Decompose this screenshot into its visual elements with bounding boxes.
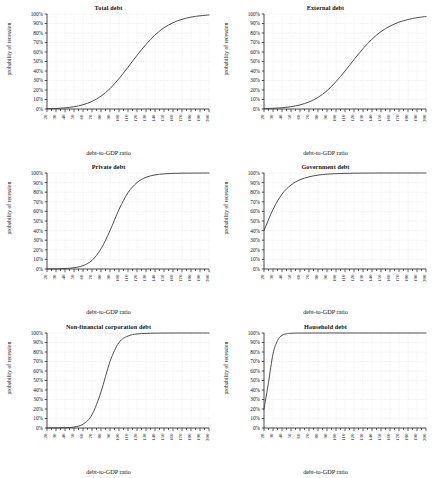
svg-text:190: 190 <box>196 274 201 282</box>
svg-text:100: 100 <box>332 114 337 122</box>
svg-text:110: 110 <box>124 433 129 441</box>
x-axis-label: debt-to-GDP ratio <box>0 149 217 156</box>
svg-text:60: 60 <box>296 274 301 280</box>
svg-text:100: 100 <box>332 433 337 441</box>
svg-text:30%: 30% <box>250 396 260 402</box>
svg-text:60%: 60% <box>33 49 43 55</box>
svg-text:70: 70 <box>88 114 93 120</box>
chart-panel-household-debt: Household debt probability of recession … <box>217 319 434 478</box>
svg-text:20%: 20% <box>33 406 43 412</box>
svg-text:90: 90 <box>106 433 111 439</box>
svg-text:30%: 30% <box>33 237 43 243</box>
svg-text:50%: 50% <box>250 218 260 224</box>
svg-text:30: 30 <box>269 274 274 280</box>
svg-text:60%: 60% <box>250 368 260 374</box>
svg-text:40: 40 <box>278 433 283 439</box>
svg-text:90%: 90% <box>250 180 260 186</box>
svg-text:140: 140 <box>151 114 156 122</box>
svg-text:70%: 70% <box>33 199 43 205</box>
svg-text:200: 200 <box>422 274 427 282</box>
svg-text:70: 70 <box>305 433 310 439</box>
svg-text:30: 30 <box>269 433 274 439</box>
svg-text:60: 60 <box>296 114 301 120</box>
svg-text:60%: 60% <box>250 49 260 55</box>
svg-text:20%: 20% <box>250 247 260 253</box>
chart-panel-external-debt: External debt probability of recession 0… <box>217 0 434 159</box>
svg-text:200: 200 <box>422 433 427 441</box>
svg-text:150: 150 <box>377 114 382 122</box>
svg-text:80: 80 <box>97 274 102 280</box>
svg-text:140: 140 <box>368 274 373 282</box>
svg-text:180: 180 <box>404 114 409 122</box>
svg-text:80%: 80% <box>250 349 260 355</box>
svg-text:120: 120 <box>133 433 138 441</box>
svg-text:140: 140 <box>151 433 156 441</box>
svg-text:140: 140 <box>368 433 373 441</box>
svg-text:80%: 80% <box>250 30 260 36</box>
svg-text:150: 150 <box>160 114 165 122</box>
svg-text:0%: 0% <box>253 266 261 272</box>
svg-text:90: 90 <box>106 114 111 120</box>
svg-text:40: 40 <box>278 114 283 120</box>
plot-area: 0%10%20%30%40%50%60%70%80%90%100%2030405… <box>0 319 217 478</box>
svg-text:60%: 60% <box>33 368 43 374</box>
svg-text:150: 150 <box>160 433 165 441</box>
svg-text:30: 30 <box>52 114 57 120</box>
svg-text:200: 200 <box>205 274 210 282</box>
plot-area: 0%10%20%30%40%50%60%70%80%90%100%2030405… <box>0 159 217 319</box>
svg-text:50%: 50% <box>250 377 260 383</box>
svg-text:20: 20 <box>43 433 48 439</box>
svg-text:120: 120 <box>350 433 355 441</box>
svg-text:140: 140 <box>368 114 373 122</box>
svg-text:20: 20 <box>260 433 265 439</box>
svg-text:180: 180 <box>187 114 192 122</box>
svg-text:50: 50 <box>287 114 292 120</box>
svg-text:100%: 100% <box>31 330 44 336</box>
svg-text:160: 160 <box>386 274 391 282</box>
svg-text:30: 30 <box>269 114 274 120</box>
svg-text:150: 150 <box>377 433 382 441</box>
chart-panel-total-debt: Total debt probability of recession 0%10… <box>0 0 217 159</box>
plot-area: 0%10%20%30%40%50%60%70%80%90%100%2030405… <box>217 0 434 159</box>
svg-text:90%: 90% <box>33 20 43 26</box>
svg-text:50%: 50% <box>33 58 43 64</box>
x-axis-label: debt-to-GDP ratio <box>217 468 434 475</box>
chart-panel-government-debt: Government debt probability of recession… <box>217 159 434 318</box>
x-axis-label: debt-to-GDP ratio <box>0 468 217 475</box>
svg-text:10%: 10% <box>250 415 260 421</box>
plot-area: 0%10%20%30%40%50%60%70%80%90%100%2030405… <box>217 159 434 319</box>
svg-text:100%: 100% <box>248 330 261 336</box>
svg-text:20%: 20% <box>250 87 260 93</box>
svg-text:0%: 0% <box>253 106 261 112</box>
svg-text:20%: 20% <box>33 87 43 93</box>
svg-text:60: 60 <box>79 114 84 120</box>
svg-text:20: 20 <box>260 274 265 280</box>
x-axis-label: debt-to-GDP ratio <box>217 149 434 156</box>
svg-text:80: 80 <box>97 433 102 439</box>
svg-text:90: 90 <box>323 274 328 280</box>
svg-text:20%: 20% <box>33 247 43 253</box>
svg-text:110: 110 <box>124 274 129 282</box>
svg-text:40%: 40% <box>33 228 43 234</box>
svg-text:40%: 40% <box>250 387 260 393</box>
svg-text:110: 110 <box>341 114 346 122</box>
svg-text:90: 90 <box>323 114 328 120</box>
svg-text:40: 40 <box>61 114 66 120</box>
svg-text:160: 160 <box>169 274 174 282</box>
svg-text:200: 200 <box>205 114 210 122</box>
svg-text:70: 70 <box>305 274 310 280</box>
svg-text:50: 50 <box>70 433 75 439</box>
svg-text:10%: 10% <box>33 415 43 421</box>
svg-text:180: 180 <box>404 274 409 282</box>
svg-text:50%: 50% <box>33 218 43 224</box>
svg-text:120: 120 <box>350 114 355 122</box>
svg-text:50: 50 <box>287 433 292 439</box>
svg-text:40%: 40% <box>33 68 43 74</box>
svg-text:130: 130 <box>142 274 147 282</box>
svg-text:70%: 70% <box>250 39 260 45</box>
svg-text:200: 200 <box>205 433 210 441</box>
svg-text:0%: 0% <box>36 425 44 431</box>
svg-text:170: 170 <box>395 114 400 122</box>
svg-text:130: 130 <box>142 114 147 122</box>
svg-text:190: 190 <box>196 433 201 441</box>
